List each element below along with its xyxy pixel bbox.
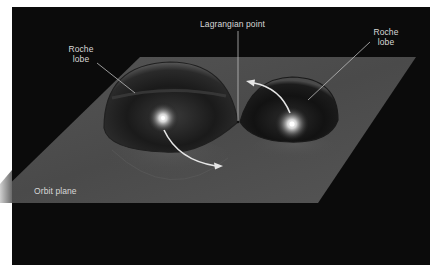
right-star-core (290, 122, 295, 127)
left-roche-lobe-label: Roche lobe (61, 44, 101, 64)
left-star-core (161, 116, 165, 120)
roche-lobe-diagram: Roche lobe Roche lobe Lagrangian point O… (0, 0, 437, 273)
lagrangian-point-marker (237, 121, 239, 123)
right-roche-lobe-label: Roche lobe (366, 27, 406, 47)
orbit-plane-overhang (0, 170, 12, 203)
orbit-plane-label: Orbit plane (34, 186, 77, 196)
lagrangian-point-label: Lagrangian point (200, 19, 265, 29)
